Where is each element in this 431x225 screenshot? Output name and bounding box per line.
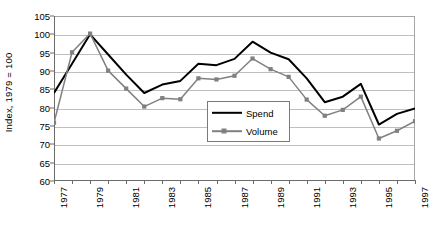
x-tick-mark — [90, 180, 91, 184]
x-tick-label: 1987 — [239, 187, 250, 208]
x-tick-mark — [126, 180, 127, 184]
x-tick-label: 1983 — [166, 187, 177, 208]
data-point-marker — [287, 75, 291, 79]
x-tick-label: 1997 — [419, 187, 430, 208]
x-tick-mark — [325, 180, 326, 184]
data-point-marker — [142, 104, 146, 108]
data-point-marker — [413, 119, 415, 123]
x-tick-label: 1979 — [94, 187, 105, 208]
data-point-marker — [250, 56, 254, 60]
data-point-marker — [214, 77, 218, 81]
y-tick-label: 105 — [2, 11, 50, 22]
legend-label-spend: Spend — [246, 108, 273, 119]
data-point-marker — [232, 74, 236, 78]
line-chart: Index, 1979 = 100 6065707580859095100105… — [0, 0, 431, 225]
y-tick-label: 80 — [2, 102, 50, 113]
x-tick-label: 1981 — [130, 187, 141, 208]
x-tick-label: 1995 — [383, 187, 394, 208]
y-tick-mark — [50, 52, 54, 53]
y-tick-label: 65 — [2, 157, 50, 168]
y-tick-label: 90 — [2, 66, 50, 77]
data-point-marker — [178, 97, 182, 101]
y-axis-tick-labels: 6065707580859095100105 — [0, 0, 50, 225]
data-point-marker — [54, 121, 56, 125]
x-tick-mark — [253, 180, 254, 184]
y-tick-mark — [50, 107, 54, 108]
x-tick-mark — [54, 180, 55, 184]
y-tick-label: 60 — [2, 176, 50, 187]
legend-key-spend-icon — [212, 107, 242, 119]
y-tick-mark — [50, 144, 54, 145]
legend-item-spend: Spend — [212, 105, 273, 121]
x-tick-mark — [235, 180, 236, 184]
x-tick-mark — [415, 180, 416, 184]
x-tick-label: 1991 — [311, 187, 322, 208]
legend-item-volume: Volume — [212, 123, 278, 139]
x-tick-label: 1985 — [202, 187, 213, 208]
data-point-marker — [70, 50, 74, 54]
y-tick-label: 100 — [2, 29, 50, 40]
x-tick-mark — [217, 180, 218, 184]
y-tick-label: 95 — [2, 47, 50, 58]
x-tick-label: 1989 — [275, 187, 286, 208]
x-tick-mark — [361, 180, 362, 184]
data-point-marker — [196, 76, 200, 80]
data-point-marker — [88, 32, 92, 36]
x-tick-mark — [162, 180, 163, 184]
x-tick-mark — [397, 180, 398, 184]
data-point-marker — [359, 95, 363, 99]
x-tick-label: 1977 — [58, 187, 69, 208]
x-tick-mark — [289, 180, 290, 184]
y-tick-mark — [50, 89, 54, 90]
x-tick-mark — [307, 180, 308, 184]
x-tick-mark — [180, 180, 181, 184]
y-tick-label: 75 — [2, 121, 50, 132]
y-tick-mark — [50, 71, 54, 72]
y-tick-label: 85 — [2, 84, 50, 95]
data-point-marker — [160, 96, 164, 100]
data-point-marker — [377, 136, 381, 140]
y-tick-mark — [50, 162, 54, 163]
legend-label-volume: Volume — [246, 126, 278, 137]
legend-key-volume-icon — [212, 125, 242, 137]
x-tick-mark — [144, 180, 145, 184]
data-point-marker — [269, 67, 273, 71]
data-point-marker — [341, 108, 345, 112]
y-tick-mark — [50, 126, 54, 127]
series-group — [54, 16, 415, 181]
x-tick-mark — [379, 180, 380, 184]
legend: Spend Volume — [207, 101, 290, 142]
x-tick-label: 1993 — [347, 187, 358, 208]
x-tick-mark — [72, 180, 73, 184]
data-point-marker — [124, 87, 128, 91]
data-point-marker — [305, 98, 309, 102]
y-tick-label: 70 — [2, 139, 50, 150]
y-tick-mark — [50, 16, 54, 17]
x-tick-mark — [343, 180, 344, 184]
x-tick-mark — [198, 180, 199, 184]
data-point-marker — [323, 114, 327, 118]
y-tick-mark — [50, 34, 54, 35]
data-point-marker — [106, 69, 110, 73]
x-tick-mark — [271, 180, 272, 184]
data-point-marker — [395, 129, 399, 133]
x-tick-mark — [108, 180, 109, 184]
